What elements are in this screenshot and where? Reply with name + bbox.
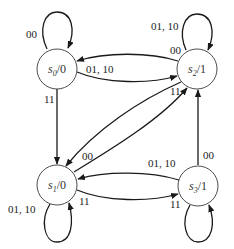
- label-s3-self: 11: [170, 198, 181, 210]
- state-s3: s3/1: [178, 166, 218, 206]
- label-s2-diag: 11: [170, 85, 181, 97]
- edge-s1-s3: [77, 190, 178, 200]
- svg-text:s1/0: s1/0: [48, 178, 66, 194]
- label-s1-self: 01, 10: [8, 203, 36, 215]
- state-diagram: s0/0 s2/1 s1/0 s3/1 00 01, 10 00 11 01, …: [0, 0, 234, 249]
- edge-s2-s0: [77, 54, 178, 61]
- label-s0-s2-pair: 01, 10: [86, 63, 114, 75]
- svg-text:s3/1: s3/1: [189, 179, 207, 195]
- edge-s1-self: [44, 203, 71, 242]
- label-s2-self: 01, 10: [151, 20, 179, 32]
- svg-text:s0/0: s0/0: [48, 62, 66, 78]
- label-s0-s1: 11: [44, 93, 55, 105]
- state-s1: s1/0: [37, 165, 77, 205]
- label-s0-self: 00: [26, 28, 38, 40]
- state-s0: s0/0: [37, 49, 77, 89]
- edge-s3-s1: [78, 173, 179, 180]
- label-s1-s3: 11: [79, 195, 90, 207]
- state-s2: s2/1: [177, 49, 217, 89]
- edge-s3-self: [185, 205, 212, 242]
- label-s1-diag: 00: [82, 150, 94, 162]
- edge-s0-self: [43, 12, 72, 49]
- label-s3-s1: 01, 10: [148, 157, 176, 169]
- edge-s2-self: [182, 14, 212, 50]
- svg-text:s2/1: s2/1: [188, 62, 206, 78]
- label-s2-s0-in: 00: [170, 44, 182, 56]
- label-s3-s2: 00: [203, 149, 215, 161]
